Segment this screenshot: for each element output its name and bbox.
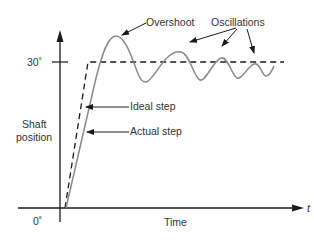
actual-step-label: Actual step xyxy=(130,126,182,137)
y-tick-30-label: 30˚ xyxy=(27,57,42,68)
x-axis-arrow-icon xyxy=(292,205,304,212)
y-axis-arrow-icon xyxy=(57,30,64,42)
y-axis-label-line2: position xyxy=(16,132,52,143)
overshoot-label: Overshoot xyxy=(146,17,194,28)
step-response-diagram xyxy=(0,0,314,241)
oscillation-pointer-1 xyxy=(190,28,236,42)
y-tick-0-label: 0˚ xyxy=(33,216,42,227)
oscillations-label: Oscillations xyxy=(211,17,265,28)
oscillation-pointer-3 xyxy=(247,29,254,53)
y-axis-label-line1: Shaft xyxy=(22,119,47,130)
overshoot-pointer xyxy=(122,23,146,35)
t-symbol-label: t xyxy=(307,203,310,214)
x-axis-label: Time xyxy=(164,217,187,228)
ideal-step-label: Ideal step xyxy=(130,101,176,112)
